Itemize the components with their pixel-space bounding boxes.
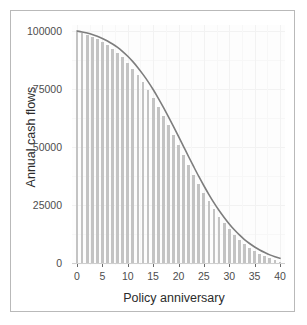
x-axis-tick-mark bbox=[229, 264, 230, 267]
x-axis-tick-mark bbox=[128, 264, 129, 267]
x-axis-tick-mark bbox=[153, 264, 154, 267]
x-axis-tick-mark bbox=[102, 264, 103, 267]
x-axis-tick-mark bbox=[179, 264, 180, 267]
x-axis-tick-labels: 0510152025303540 bbox=[0, 0, 307, 325]
x-axis-tick-mark bbox=[255, 264, 256, 267]
x-axis-tick-mark bbox=[204, 264, 205, 267]
x-axis-title: Policy anniversary bbox=[62, 291, 286, 306]
x-axis-tick-label: 40 bbox=[265, 271, 295, 282]
x-axis-tick-mark bbox=[77, 264, 78, 267]
x-axis-tick-mark bbox=[280, 264, 281, 267]
